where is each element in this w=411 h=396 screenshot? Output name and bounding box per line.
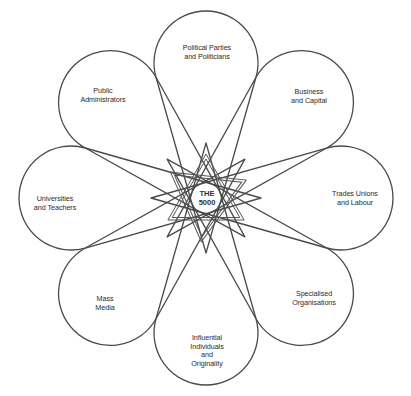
label-line: and Labour: [332, 199, 378, 208]
label-line: and Teachers: [34, 204, 76, 213]
petal-mass-media: [37, 122, 282, 367]
flower-diagram: Political Parties and Politicians Busine…: [0, 0, 411, 396]
label-line: Originality: [190, 360, 223, 369]
label-line: THE: [199, 189, 216, 198]
petal-business-capital: [130, 29, 375, 274]
label-line: and Politicians: [183, 53, 231, 62]
petal-public-administrators: [37, 29, 282, 274]
label-line: 5000: [199, 198, 216, 207]
label-line: and Capital: [291, 97, 327, 106]
label-influential-individuals: Influential Individuals and Originality: [190, 334, 223, 368]
label-political-parties: Political Parties and Politicians: [183, 44, 231, 61]
label-mass-media: Mass Media: [95, 295, 114, 312]
label-public-administrators: Public Administrators: [80, 87, 125, 104]
label-specialised-organisations: Specialised Organisations: [292, 290, 336, 307]
center-label-the-5000: THE 5000: [199, 189, 216, 207]
label-line: Media: [95, 304, 114, 313]
label-business-capital: Business and Capital: [291, 88, 327, 105]
label-universities-teachers: Universities and Teachers: [34, 195, 76, 212]
label-line: Organisations: [292, 299, 336, 308]
petal-specialised-organisations: [130, 122, 375, 367]
label-line: Administrators: [80, 96, 125, 105]
label-trades-unions: Trades Unions and Labour: [332, 190, 378, 207]
